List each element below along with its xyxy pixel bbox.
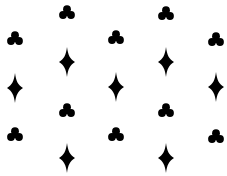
suit-pattern-canvas: [0, 0, 227, 176]
club-icon: [59, 103, 75, 118]
club-icon: [108, 127, 124, 142]
club-icon: [108, 30, 124, 45]
diamond-icon: [108, 72, 124, 102]
club-icon: [7, 127, 23, 142]
diamond-icon: [59, 143, 75, 173]
club-icon: [7, 31, 23, 46]
diamond-icon: [208, 72, 224, 102]
club-icon: [59, 5, 75, 20]
club-icon: [158, 103, 174, 118]
diamond-icon: [158, 143, 174, 173]
club-icon: [208, 129, 224, 144]
diamond-icon: [158, 47, 174, 77]
club-icon: [208, 32, 224, 47]
club-icon: [158, 6, 174, 21]
diamond-icon: [59, 47, 75, 77]
diamond-icon: [7, 73, 23, 103]
